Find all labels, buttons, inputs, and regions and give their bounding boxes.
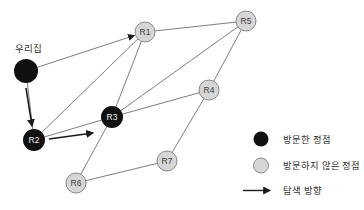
- node-R7: R7: [157, 151, 177, 171]
- node-label-R6: R6: [71, 178, 82, 188]
- edge-R4-R5: [209, 21, 246, 90]
- legend: 방문한 정점 방문하지 않은 정점 탐색 방향: [243, 132, 360, 197]
- node-R5: R5: [236, 11, 256, 31]
- node-label-R4: R4: [204, 85, 215, 95]
- legend-visited-label: 방문한 정점: [283, 134, 331, 145]
- edge-R1-R5: [145, 21, 246, 32]
- node-label-R7: R7: [162, 156, 173, 166]
- node-R4: R4: [199, 80, 219, 100]
- nodes-layer: 우리집R1R5R4R3R2R6R7: [14, 11, 256, 193]
- node-label-R1: R1: [140, 27, 151, 37]
- legend-unvisited-label: 방문하지 않은 정점: [283, 160, 360, 171]
- legend-direction-label: 탐색 방향: [283, 185, 322, 196]
- node-label-R3: R3: [107, 112, 118, 122]
- edge-home-R1: [26, 36, 134, 71]
- edge-R4-R7: [167, 90, 209, 161]
- graph-diagram: 우리집R1R5R4R3R2R6R7 방문한 정점 방문하지 않은 정점 탐색 방…: [0, 0, 364, 210]
- legend-visited-swatch: [254, 132, 269, 147]
- node-label-home: 우리집: [15, 43, 42, 54]
- edges-layer: [26, 21, 246, 183]
- node-home: 우리집: [14, 43, 42, 83]
- edge-R3-R4: [112, 90, 209, 117]
- diagram-svg: 우리집R1R5R4R3R2R6R7 방문한 정점 방문하지 않은 정점 탐색 방…: [0, 0, 364, 210]
- legend-unvisited-swatch: [254, 158, 269, 173]
- node-R2: R2: [23, 129, 45, 151]
- edge-R3-R5: [112, 21, 246, 117]
- node-label-R5: R5: [241, 16, 252, 26]
- node-R6: R6: [66, 173, 86, 193]
- node-R3: R3: [101, 106, 123, 128]
- edge-R6-R7: [76, 161, 167, 183]
- edge-R3-R6: [76, 117, 112, 183]
- node-R1: R1: [135, 22, 155, 42]
- node-label-R2: R2: [29, 135, 40, 145]
- edge-R1-R3: [112, 32, 145, 117]
- node-circle-home: [14, 59, 38, 83]
